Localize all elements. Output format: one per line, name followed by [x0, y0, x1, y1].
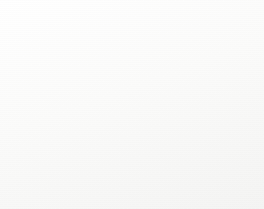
category-label-configure-line2: up a pr... — [176, 45, 238, 51]
data-label-43: 43 — [41, 20, 64, 44]
category-label-troubleshoot: Troubleshootin g (bug fi... — [189, 73, 253, 86]
data-label-15: 15 — [31, 157, 54, 181]
category-label-configure: Configure / set up a pr... — [176, 39, 238, 52]
data-label-6: 6 — [176, 157, 187, 181]
pie-center-hub — [108, 100, 117, 110]
category-label-troubleshoot-line2: g (bug fi... — [189, 79, 253, 85]
category-label-download-line3: firm... — [133, 28, 187, 34]
category-label-download: Download software, firm... — [133, 15, 187, 34]
